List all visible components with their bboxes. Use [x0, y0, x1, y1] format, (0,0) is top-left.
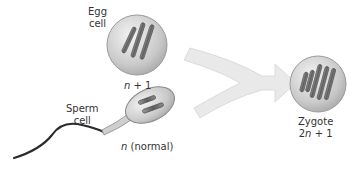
egg-label-line2: cell	[88, 18, 107, 30]
zygote-label: Zygote	[298, 116, 333, 128]
sperm-label-line2: cell	[66, 115, 99, 127]
sperm-cell-label: Sperm cell	[66, 103, 99, 127]
egg-cell-label: Egg cell	[88, 6, 107, 30]
egg-cell	[107, 15, 167, 75]
sperm-tail	[14, 124, 104, 158]
egg-ploidy: n + 1	[124, 80, 151, 92]
sperm-ploidy-rest: (normal)	[127, 141, 173, 152]
sperm-label-line1: Sperm	[66, 103, 99, 115]
fertilization-diagram	[0, 0, 359, 172]
merge-arrow	[184, 48, 296, 118]
zygote-ploidy-rest: + 1	[311, 128, 332, 139]
zygote-label-block: Zygote 2n + 1	[298, 116, 333, 140]
egg-ploidy-rest: + 1	[130, 80, 151, 91]
egg-label-line1: Egg	[88, 6, 107, 18]
zygote-ploidy: 2n + 1	[298, 128, 333, 140]
zygote-cell	[290, 56, 346, 112]
sperm-ploidy: n (normal)	[121, 141, 173, 153]
